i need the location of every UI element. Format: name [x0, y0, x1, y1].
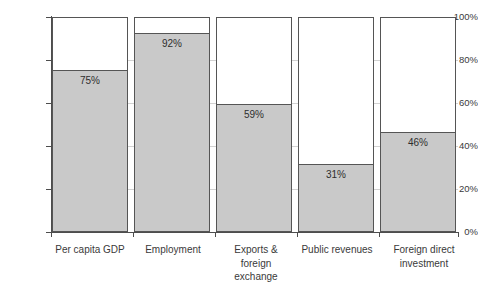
- category-label-employment: Employment: [128, 243, 218, 257]
- y-axis-tick-80: [46, 60, 51, 61]
- x-axis-tick-4: [379, 233, 380, 237]
- y-axis-tick-40: [46, 146, 51, 147]
- category-label-exports-foreign-exchange: Exports & foreign exchange: [212, 243, 300, 284]
- category-label-line: investment: [376, 257, 472, 271]
- x-axis-line: [51, 232, 459, 233]
- x-axis-tick-1: [133, 233, 134, 237]
- bar-column-per-capita-gdp[interactable]: 75%: [52, 17, 128, 232]
- category-label-public-revenues: Public revenues: [289, 243, 385, 257]
- x-axis-tick-5: [458, 233, 459, 237]
- bar-fill-foreign-direct-investment: 46%: [381, 132, 455, 231]
- category-label-line: Exports &: [212, 243, 300, 257]
- category-label-line: exchange: [212, 270, 300, 284]
- category-label-foreign-direct-investment: Foreign direct investment: [376, 243, 472, 270]
- bar-value-label-exports-foreign-exchange: 59%: [217, 109, 291, 121]
- category-label-line: foreign: [212, 257, 300, 271]
- bar-column-employment[interactable]: 92%: [134, 17, 210, 232]
- bar-value-label-per-capita-gdp: 75%: [53, 75, 127, 87]
- bar-column-exports-foreign-exchange[interactable]: 59%: [216, 17, 292, 232]
- x-axis-tick-2: [215, 233, 216, 237]
- x-axis-tick-3: [297, 233, 298, 237]
- category-label-line: Foreign direct: [376, 243, 472, 257]
- bar-value-label-foreign-direct-investment: 46%: [381, 137, 455, 149]
- bar-value-label-employment: 92%: [135, 38, 209, 50]
- bar-value-label-public-revenues: 31%: [299, 169, 373, 181]
- category-label-line: Per capita GDP: [44, 243, 136, 257]
- y-axis-tick-20: [46, 189, 51, 190]
- bar-fill-exports-foreign-exchange: 59%: [217, 104, 291, 231]
- bar-fill-public-revenues: 31%: [299, 164, 373, 231]
- category-label-line: Public revenues: [289, 243, 385, 257]
- bar-fill-per-capita-gdp: 75%: [53, 70, 127, 231]
- bar-column-foreign-direct-investment[interactable]: 46%: [380, 17, 456, 232]
- category-label-line: Employment: [128, 243, 218, 257]
- bar-fill-employment: 92%: [135, 33, 209, 231]
- y-axis-tick-100: [46, 17, 51, 18]
- x-axis-tick-0: [51, 233, 52, 237]
- category-label-per-capita-gdp: Per capita GDP: [44, 243, 136, 257]
- bar-column-public-revenues[interactable]: 31%: [298, 17, 374, 232]
- plot-area: 75% 92% 59% 31% 46%: [52, 17, 458, 232]
- y-axis-tick-60: [46, 103, 51, 104]
- bar-chart: 100% 80% 60% 40% 20% 0% 75% 92%: [0, 0, 478, 294]
